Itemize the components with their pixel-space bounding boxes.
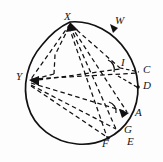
circle-outline-group <box>26 22 138 144</box>
point-label-g: G <box>124 124 132 135</box>
chords-from-y <box>31 69 127 137</box>
point-label-y: Y <box>16 71 22 82</box>
point-label-e: E <box>127 136 134 147</box>
point-label-i: I <box>121 57 125 68</box>
marker-d <box>136 85 140 89</box>
segment-x-f <box>69 27 107 137</box>
point-label-f: F <box>102 138 109 149</box>
point-label-a: A <box>135 107 142 118</box>
figure-canvas <box>0 0 163 162</box>
tick-to-d <box>118 76 137 87</box>
point-label-d: D <box>143 80 151 91</box>
point-label-w: W <box>115 15 124 26</box>
geometry-figure: X W I C D A G E F Y <box>0 0 163 162</box>
arrowhead-into-a <box>119 109 129 118</box>
circle-outline <box>26 22 138 144</box>
segment-y-i <box>31 69 120 81</box>
segment-x-g <box>70 26 116 129</box>
segment-y-a <box>31 83 127 112</box>
segment-y-g <box>31 85 116 129</box>
construction-path-upper <box>54 27 69 74</box>
angle-markers <box>108 60 116 113</box>
point-label-x: X <box>64 11 71 22</box>
point-label-c: C <box>143 64 150 75</box>
